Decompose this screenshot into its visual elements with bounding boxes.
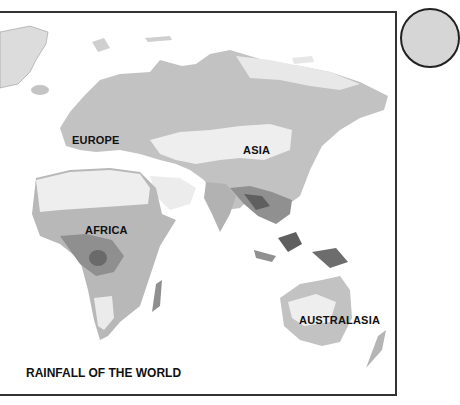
region-label-europe: EUROPE — [72, 134, 120, 146]
region-label-africa: AFRICA — [85, 224, 128, 236]
new-zealand-shape — [366, 330, 386, 368]
iceland-shape — [31, 85, 49, 95]
region-label-australasia: AUSTRALASIA — [299, 314, 380, 326]
globe-inset — [400, 8, 460, 68]
region-label-asia: ASIA — [243, 144, 270, 156]
greenland-shape — [0, 26, 48, 88]
map-title: RAINFALL OF THE WORLD — [26, 366, 181, 380]
madagascar-shape — [152, 280, 162, 312]
